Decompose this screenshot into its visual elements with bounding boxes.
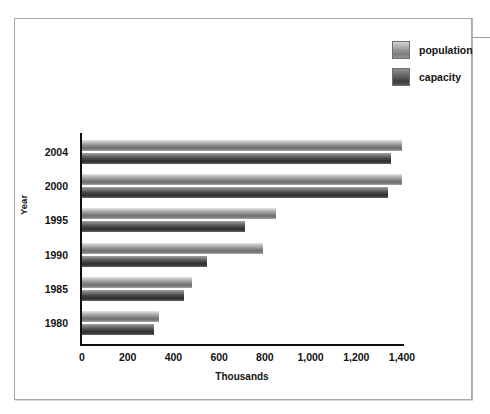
legend-item-capacity[interactable]: capacity	[392, 67, 473, 87]
x-tick-label: 200	[119, 351, 137, 363]
x-tick-label: 400	[165, 351, 183, 363]
x-tick-labels: 02004006008001,0001,2001,400	[0, 351, 470, 367]
x-axis-title: Thousands	[82, 371, 402, 382]
bar-capacity[interactable]	[82, 221, 245, 232]
x-tick-label: 600	[210, 351, 228, 363]
legend-label-capacity: capacity	[419, 71, 461, 83]
bar-group	[82, 241, 402, 275]
bar-group	[82, 275, 402, 309]
x-tick-label: 1,400	[389, 351, 415, 363]
legend-item-population[interactable]: population	[392, 40, 473, 60]
bar-capacity[interactable]	[82, 324, 154, 335]
x-tick-label: 0	[79, 351, 85, 363]
y-tick-label: 1990	[45, 249, 68, 261]
chart-legend: population capacity	[392, 40, 473, 94]
bar-population[interactable]	[82, 140, 402, 151]
chart-canvas: population capacity Year 200420001995199…	[0, 0, 490, 414]
bar-capacity[interactable]	[82, 256, 207, 267]
legend-label-population: population	[419, 44, 473, 56]
y-tick-label: 1985	[45, 283, 68, 295]
x-tick-label: 800	[256, 351, 274, 363]
bar-groups	[82, 138, 402, 343]
plot-area	[82, 138, 402, 343]
population-swatch-icon	[392, 41, 410, 59]
y-tick-labels: 200420001995199019851980	[0, 138, 76, 343]
bar-group	[82, 138, 402, 172]
x-axis-line	[80, 344, 404, 346]
x-tick-label: 1,000	[297, 351, 323, 363]
bar-capacity[interactable]	[82, 187, 388, 198]
x-tick-label: 1,200	[343, 351, 369, 363]
bar-population[interactable]	[82, 277, 192, 288]
bar-group	[82, 309, 402, 343]
bar-capacity[interactable]	[82, 290, 184, 301]
bar-group	[82, 206, 402, 240]
page-edge-rule	[472, 37, 490, 38]
capacity-swatch-icon	[392, 68, 410, 86]
bar-capacity[interactable]	[82, 153, 391, 164]
bar-population[interactable]	[82, 243, 263, 254]
bar-population[interactable]	[82, 208, 276, 219]
bar-population[interactable]	[82, 311, 159, 322]
y-tick-label: 1995	[45, 214, 68, 226]
y-tick-label: 2000	[45, 180, 68, 192]
y-tick-label: 1980	[45, 317, 68, 329]
bar-group	[82, 172, 402, 206]
y-tick-label: 2004	[45, 146, 68, 158]
bar-population[interactable]	[82, 174, 402, 185]
